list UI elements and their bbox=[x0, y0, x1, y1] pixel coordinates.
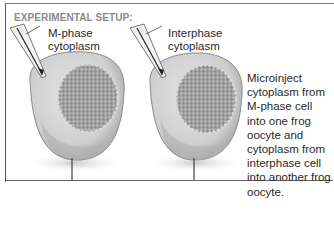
right-label-line1: Interphase bbox=[168, 27, 222, 40]
right-label-line2: cytoplasm bbox=[168, 40, 222, 53]
left-micropipette-icon bbox=[10, 24, 46, 78]
left-label-line2: cytoplasm bbox=[48, 40, 100, 53]
right-cell-label: Interphase cytoplasm bbox=[168, 27, 222, 53]
right-nucleus bbox=[176, 65, 236, 133]
right-micropipette-icon bbox=[130, 24, 166, 78]
left-cell-label: M-phase cytoplasm bbox=[48, 27, 100, 53]
left-nucleus bbox=[58, 64, 118, 132]
setup-description: Microinject cytoplasm from M-phase cell … bbox=[247, 71, 333, 199]
left-label-line1: M-phase bbox=[48, 27, 100, 40]
